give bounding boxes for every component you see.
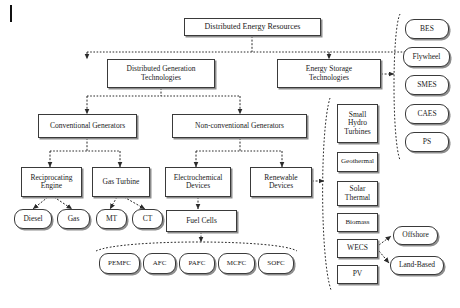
node-non-conventional-generators[interactable]: Non-conventional Generators — [172, 114, 307, 138]
edge-gasturb-mt — [110, 197, 117, 209]
node-label: CAES — [417, 110, 436, 118]
node-renewable-devices[interactable]: RenewableDevices — [250, 167, 312, 197]
node-label: SmallHydroTurbines — [344, 111, 370, 136]
node-smes[interactable]: SMES — [405, 75, 449, 95]
node-label: Gas Turbine — [103, 178, 140, 186]
node-distributed-generation-technologies[interactable]: Distributed GenerationTechnologies — [107, 59, 215, 88]
node-label: SMES — [417, 81, 437, 89]
node-label: ElectrochemicalDevices — [174, 174, 223, 191]
node-label: Offshore — [402, 231, 429, 239]
node-ps[interactable]: PS — [405, 132, 449, 152]
node-label: Distributed GenerationTechnologies — [127, 65, 196, 82]
node-reciprocating-engine[interactable]: ReciprocatingEngine — [21, 167, 82, 197]
node-wecs[interactable]: WECS — [337, 239, 378, 258]
node-gas[interactable]: Gas — [57, 209, 90, 229]
node-label: Geothermal — [341, 158, 374, 166]
edge-recip-gas — [54, 197, 72, 209]
node-offshore[interactable]: Offshore — [393, 226, 438, 245]
node-electrochemical-devices[interactable]: ElectrochemicalDevices — [165, 167, 231, 197]
node-gas-turbine[interactable]: Gas Turbine — [92, 167, 150, 197]
node-label: AFC — [153, 260, 167, 268]
node-flywheel[interactable]: Flywheel — [403, 47, 450, 67]
brace-fuelcells — [96, 242, 297, 251]
node-afc[interactable]: AFC — [143, 253, 176, 274]
node-label: MCFC — [227, 260, 246, 268]
node-label: Conventional Generators — [50, 122, 125, 130]
node-pemfc[interactable]: PEMFC — [99, 253, 140, 274]
node-label: Flywheel — [413, 53, 441, 61]
node-diesel[interactable]: Diesel — [14, 209, 52, 229]
node-label: CT — [143, 215, 153, 223]
node-biomass[interactable]: Biomass — [337, 213, 378, 232]
edge-gasturb-ct — [124, 197, 145, 209]
node-energy-storage-technologies[interactable]: Energy StorageTechnologies — [277, 59, 381, 88]
diagram-canvas: Distributed Energy Resources Distributed… — [0, 0, 460, 308]
node-label: Gas — [68, 215, 80, 223]
node-label: SolarThermal — [345, 185, 370, 202]
node-geothermal[interactable]: Geothermal — [337, 152, 378, 172]
edge-wecs-landbased — [379, 251, 389, 263]
node-label: WECS — [347, 244, 368, 252]
node-pafc[interactable]: PAFC — [179, 253, 215, 274]
node-label: PS — [423, 138, 431, 146]
node-label: PEMFC — [108, 260, 131, 268]
node-label: Non-conventional Generators — [195, 122, 284, 130]
node-caes[interactable]: CAES — [405, 104, 449, 124]
node-label: RenewableDevices — [264, 174, 297, 191]
node-label: Diesel — [23, 215, 42, 223]
node-sofc[interactable]: SOFC — [258, 253, 294, 274]
node-label: Biomass — [345, 219, 369, 227]
node-label: MT — [106, 215, 117, 223]
edge-recip-diesel — [33, 197, 48, 209]
node-pv[interactable]: PV — [337, 265, 378, 284]
node-solar-thermal[interactable]: SolarThermal — [337, 181, 378, 206]
edge-wecs-offshore — [379, 236, 391, 245]
node-conventional-generators[interactable]: Conventional Generators — [38, 114, 137, 138]
node-label: Land-Based — [399, 261, 435, 269]
node-label: Fuel Cells — [186, 217, 217, 225]
node-label: PV — [353, 270, 363, 278]
node-label: PAFC — [189, 260, 206, 268]
node-label: Energy StorageTechnologies — [306, 65, 352, 82]
node-small-hydro-turbines[interactable]: SmallHydroTurbines — [337, 104, 378, 143]
node-mcfc[interactable]: MCFC — [218, 253, 255, 274]
brace-renewable — [323, 98, 331, 290]
node-label: ReciprocatingEngine — [30, 174, 72, 191]
brace-storage — [394, 14, 400, 160]
node-ct[interactable]: CT — [132, 209, 163, 229]
node-label: SOFC — [267, 260, 285, 268]
node-bes[interactable]: BES — [405, 19, 449, 39]
node-distributed-energy-resources[interactable]: Distributed Energy Resources — [184, 18, 321, 36]
node-mt[interactable]: MT — [96, 209, 127, 229]
node-label: BES — [420, 25, 434, 33]
node-land-based[interactable]: Land-Based — [390, 256, 444, 275]
node-label: Distributed Energy Resources — [205, 23, 301, 32]
node-fuel-cells[interactable]: Fuel Cells — [166, 210, 237, 232]
